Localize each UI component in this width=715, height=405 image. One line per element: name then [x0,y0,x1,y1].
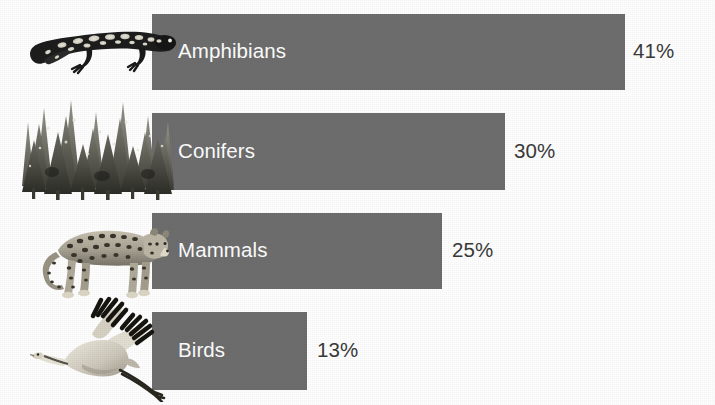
bar-value-label: 41% [633,41,674,62]
bar-category-label: Mammals [178,240,268,261]
crane-bird-icon [30,296,172,402]
bar-birds [152,312,307,390]
bar-value-label: 25% [452,240,493,261]
bar-value-label: 30% [514,141,555,162]
bar-value-label: 13% [317,340,358,361]
bar-category-label: Amphibians [178,41,286,62]
bar-category-label: Conifers [178,141,255,162]
bar-category-label: Birds [178,340,225,361]
salamander-icon [26,16,176,78]
leopard-icon [38,208,170,306]
bar-chart: Amphibians 41% [0,0,715,405]
conifer-trees-icon [22,88,174,200]
